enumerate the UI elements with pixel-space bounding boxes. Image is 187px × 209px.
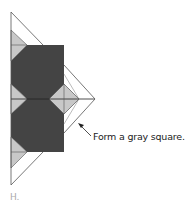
step-label: H.: [10, 192, 19, 202]
pointer-arrow-icon: [78, 123, 91, 136]
origami-diagram: [0, 0, 187, 209]
annotation-text: Form a gray square.: [93, 131, 185, 142]
